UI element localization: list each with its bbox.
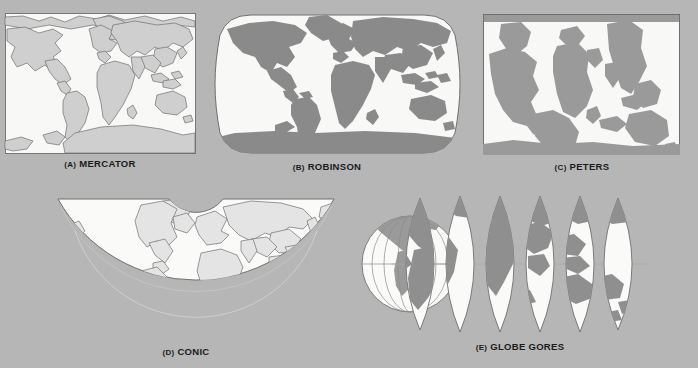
gore-5: [554, 194, 604, 332]
caption-conic-name: CONIC: [177, 346, 209, 357]
caption-mercator-name: MERCATOR: [79, 158, 135, 169]
caption-mercator-index: (A): [64, 160, 76, 169]
caption-mercator: (A) MERCATOR: [0, 158, 200, 169]
map-projections-figure: (A) MERCATOR (B) ROBINSON (C) PETERS (D)…: [0, 0, 698, 368]
gore-6: [592, 196, 638, 330]
caption-robinson-name: ROBINSON: [308, 161, 362, 172]
conic-map: [45, 193, 347, 337]
caption-peters-index: (C): [555, 163, 567, 172]
gore-3: [474, 194, 528, 332]
caption-globe-gores: (E) GLOBE GORES: [420, 341, 620, 352]
caption-globe-gores-name: GLOBE GORES: [490, 341, 564, 352]
caption-globe-gores-index: (E): [476, 343, 488, 352]
peters-map: [483, 14, 680, 155]
globe-gores-map: [362, 192, 652, 337]
mercator-map: [5, 13, 196, 154]
caption-peters-name: PETERS: [570, 161, 610, 172]
gore-4: [514, 192, 564, 332]
panel-conic: [45, 193, 347, 337]
panel-peters: [483, 14, 680, 155]
panel-mercator: [5, 13, 196, 154]
panel-robinson: [215, 13, 460, 155]
caption-robinson-index: (B): [293, 163, 305, 172]
panel-globe-gores: [362, 192, 652, 337]
caption-conic-index: (D): [162, 348, 174, 357]
caption-peters: (C) PETERS: [482, 161, 682, 172]
caption-robinson: (B) ROBINSON: [227, 161, 427, 172]
caption-conic: (D) CONIC: [86, 346, 286, 357]
robinson-map: [215, 13, 460, 155]
